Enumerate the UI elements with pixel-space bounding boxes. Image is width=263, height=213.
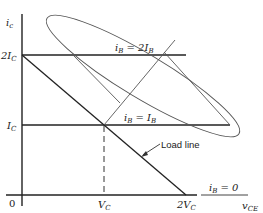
y-tick-2ic: 2IC bbox=[0, 50, 17, 63]
signal-ellipse bbox=[36, 0, 251, 153]
projection-line-2 bbox=[164, 52, 230, 125]
y-axis-label: ic bbox=[6, 17, 13, 30]
arrow-head-icon bbox=[141, 151, 148, 157]
curve-label-2ib: iB = 2IB bbox=[115, 42, 154, 55]
y-tick-ic: IC bbox=[6, 120, 17, 133]
transistor-characteristic-diagram: ic 2IC IC 0 VC 2VC vCE iB = 2IB iB = IB … bbox=[0, 0, 263, 213]
curve-label-ib-zero: iB = 0 bbox=[209, 182, 239, 195]
load-line-annotation: Load line bbox=[161, 139, 200, 150]
curve-label-ib: iB = IB bbox=[124, 112, 156, 125]
x-tick-vc: VC bbox=[98, 199, 111, 212]
projection-line-3 bbox=[73, 55, 120, 103]
x-axis-label: vCE bbox=[242, 200, 258, 213]
x-tick-2vc: 2VC bbox=[176, 199, 197, 212]
origin-label: 0 bbox=[9, 198, 15, 209]
